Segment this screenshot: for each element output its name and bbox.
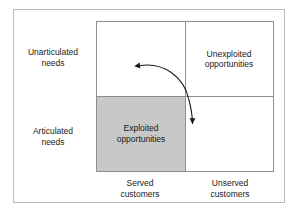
row-label-articulated-needs: Articulated needs (10, 126, 96, 147)
quadrant-unarticulated-unserved: Unexploited opportunities (185, 22, 273, 96)
quadrant-articulated-unserved (185, 96, 273, 171)
matrix-horizontal-divider (97, 96, 273, 97)
quadrant-label-exploited-opportunities: Exploited opportunities (115, 123, 168, 144)
row-label-unarticulated-needs: Unarticulated needs (10, 47, 96, 68)
column-label-served-customers: Served customers (95, 178, 185, 199)
opportunity-matrix-figure: Unarticulated needs Articulated needs Un… (0, 0, 300, 219)
matrix-plot-area: Unexploited opportunities Exploited oppo… (96, 21, 274, 172)
column-label-unserved-customers: Unserved customers (185, 178, 275, 199)
quadrant-unarticulated-served (97, 22, 185, 96)
quadrant-label-unexploited-opportunities: Unexploited opportunities (203, 49, 256, 70)
quadrant-articulated-served: Exploited opportunities (97, 96, 185, 171)
